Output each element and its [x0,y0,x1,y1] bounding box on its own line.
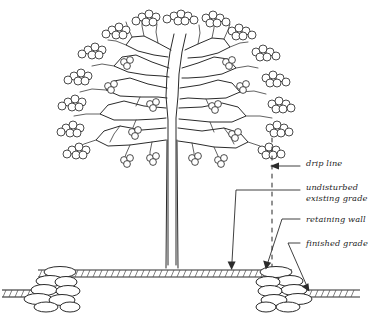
retaining-wall-right [256,267,312,313]
foliage-puff [102,23,130,39]
leader-drip-line [270,163,300,170]
foliage-puff [147,99,160,112]
leader-retaining-wall [263,219,300,270]
callout-label-undisturbed-existing-grade: undisturbed existing grade [306,182,368,203]
foliage-puff [58,95,86,111]
leader-undisturbed-existing-grade [228,190,300,270]
foliage-puff [252,45,280,61]
foliage-puff [189,153,202,166]
foliage-puff [78,43,106,59]
tree-protection-detail-drawing: drip line undisturbed existing grade ret… [0,0,380,331]
foliage-puff [129,127,142,140]
retaining-wall-left [24,267,80,313]
foliage-puff [121,57,134,70]
finished-grade-right [302,290,360,297]
callout-label-drip-line: drip line [306,158,342,169]
foliage-puff [105,81,118,94]
foliage-puff [63,143,90,159]
foliage-puff [202,11,230,27]
tree-canopy-branches [74,19,272,265]
callout-label-finished-grade: finished grade [306,238,368,249]
foliage-puff [215,155,228,168]
foliage-puff [229,129,242,142]
grade-hatching [303,290,354,297]
foliage-puff [57,121,84,137]
foliage-puff [132,10,160,26]
grade-hatching [39,270,288,277]
callout-label-retaining-wall: retaining wall [306,214,366,225]
foliage-puff [228,24,256,40]
foliage-puff [266,121,293,137]
foliage-puff [121,155,134,168]
foliage-puff [209,101,222,114]
foliage-puff [64,69,92,85]
foliage-puff [262,71,290,87]
foliage-puff [163,10,198,25]
foliage-puff [147,153,160,166]
foliage-puff [268,97,295,113]
foliage-puff [223,57,236,70]
